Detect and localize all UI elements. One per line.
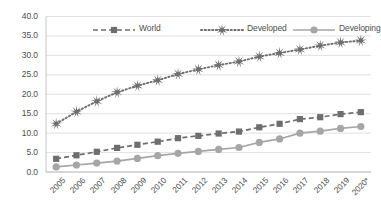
- data-point-marker: [358, 109, 364, 115]
- data-point-marker: [175, 135, 181, 141]
- data-point-marker: [174, 150, 181, 157]
- data-point-marker: [155, 139, 161, 145]
- series-line: [56, 41, 361, 124]
- legend-marker: [111, 27, 117, 33]
- data-point-marker: [134, 142, 140, 148]
- data-point-marker: [276, 121, 282, 127]
- data-point-marker: [131, 80, 143, 92]
- legend-item-world[interactable]: World: [92, 22, 161, 34]
- y-axis-tick-label: 30.0: [12, 51, 38, 60]
- data-point-marker: [317, 114, 323, 120]
- data-point-marker: [276, 135, 283, 142]
- series-world: [53, 109, 364, 162]
- data-point-marker: [297, 116, 303, 122]
- data-point-marker: [91, 95, 103, 107]
- data-point-marker: [296, 130, 303, 137]
- data-point-marker: [337, 125, 344, 132]
- y-axis-tick-label: 40.0: [12, 12, 38, 21]
- legend-item-developing[interactable]: Developing: [292, 22, 381, 34]
- data-point-marker: [215, 146, 222, 153]
- y-axis-tick-label: 15.0: [12, 109, 38, 118]
- gridlines: [46, 17, 371, 173]
- data-point-marker: [317, 128, 324, 135]
- legend-label: Developing: [339, 23, 381, 33]
- data-point-marker: [50, 118, 62, 130]
- y-axis-tick-label: 25.0: [12, 70, 38, 79]
- data-point-marker: [195, 133, 201, 139]
- data-point-marker: [152, 74, 164, 86]
- data-point-marker: [192, 63, 204, 75]
- data-point-marker: [113, 158, 120, 165]
- data-point-marker: [235, 144, 242, 151]
- y-axis-tick-label: 10.0: [12, 129, 38, 138]
- data-point-marker: [53, 163, 60, 170]
- data-point-marker: [73, 152, 79, 158]
- y-axis-tick-label: 35.0: [12, 31, 38, 40]
- data-point-marker: [93, 159, 100, 166]
- data-point-marker: [134, 155, 141, 162]
- data-series-group: [50, 34, 367, 170]
- circle-marker-icon: [292, 22, 336, 34]
- data-point-marker: [154, 152, 161, 159]
- square-marker-icon: [92, 22, 136, 34]
- legend-label: Developed: [247, 23, 287, 33]
- legend-label: World: [139, 23, 161, 33]
- y-axis-tick-label: 0.0: [12, 168, 38, 177]
- y-axis-tick-label: 5.0: [12, 148, 38, 157]
- series-developing: [53, 123, 365, 171]
- series-line: [56, 112, 361, 159]
- data-point-marker: [111, 86, 123, 98]
- data-point-marker: [337, 111, 343, 117]
- series-line: [56, 127, 361, 167]
- star-marker-icon: [200, 22, 244, 34]
- data-point-marker: [114, 145, 120, 151]
- data-point-marker: [70, 106, 82, 118]
- data-point-marker: [216, 130, 222, 136]
- data-point-marker: [256, 139, 263, 146]
- data-point-marker: [236, 128, 242, 134]
- y-axis-tick-label: 20.0: [12, 90, 38, 99]
- data-point-marker: [195, 148, 202, 155]
- data-point-marker: [256, 124, 262, 130]
- data-point-marker: [94, 149, 100, 155]
- legend-marker: [310, 26, 317, 33]
- legend-item-developed[interactable]: Developed: [200, 22, 287, 34]
- data-point-marker: [73, 161, 80, 168]
- data-point-marker: [357, 123, 364, 130]
- data-point-marker: [53, 156, 59, 162]
- data-point-marker: [233, 55, 245, 67]
